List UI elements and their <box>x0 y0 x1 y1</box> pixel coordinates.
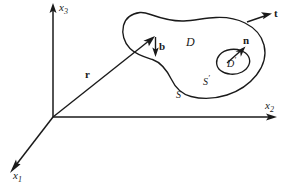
axis-x3 <box>50 3 57 117</box>
vector-t <box>247 12 272 22</box>
vector-label-t: t <box>274 8 278 19</box>
axis-x2 <box>53 113 277 120</box>
axis-x1 <box>10 117 53 173</box>
vector-b <box>152 37 158 57</box>
vector-r <box>53 36 155 117</box>
axis-label-x2: x2 <box>265 100 274 114</box>
vector-label-r: r <box>85 69 90 80</box>
curve-label-S: S <box>176 90 181 100</box>
axis-label-x3: x3 <box>59 2 68 16</box>
vector-label-n: n <box>243 35 249 46</box>
axis-x1-line <box>16 117 53 165</box>
diagram-svg <box>0 0 287 188</box>
axis-label-x1: x1 <box>13 170 22 184</box>
vector-r-line <box>53 40 150 117</box>
outer-boundary-curve-S <box>123 12 265 98</box>
figure-canvas: x3 x2 x1 r b t n D D′ S S′ <box>0 0 287 188</box>
region-label-D-prime: D′ <box>227 57 236 69</box>
region-label-D: D <box>186 36 195 48</box>
vector-label-b: b <box>159 41 165 52</box>
vector-t-arrowhead <box>261 12 272 19</box>
curve-label-S-prime: S′ <box>203 75 210 87</box>
